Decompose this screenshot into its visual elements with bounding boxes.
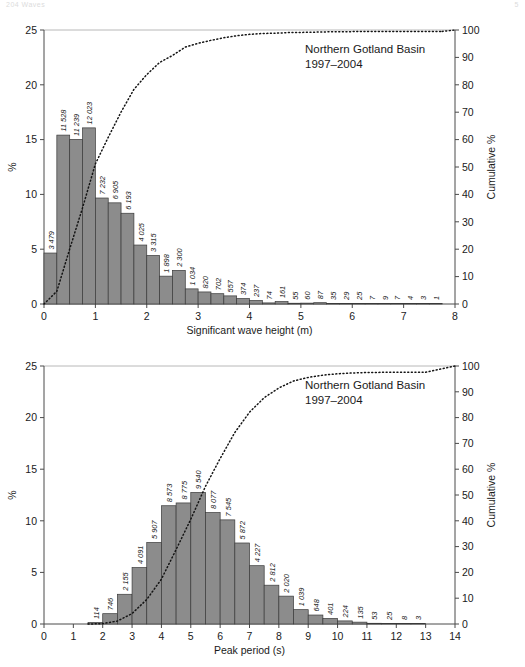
bar-value-label: 11 239 bbox=[72, 114, 81, 136]
bar bbox=[416, 303, 429, 304]
bar-value-label: 161 bbox=[278, 286, 287, 298]
x-tick-label: 8 bbox=[452, 310, 458, 322]
bar-value-label: 5 907 bbox=[150, 520, 159, 539]
bar-value-label: 1 898 bbox=[162, 253, 171, 272]
bar-value-label: 224 bbox=[341, 605, 350, 618]
y2-tick-label: 20 bbox=[462, 243, 474, 255]
y-tick-label: 20 bbox=[25, 79, 37, 91]
x-tick-label: 7 bbox=[247, 630, 253, 642]
bar bbox=[314, 303, 327, 304]
y2-axis-title: Cumulative % bbox=[485, 135, 497, 200]
x-tick-label: 11 bbox=[361, 630, 372, 642]
bar bbox=[301, 303, 314, 304]
chart-subtitle-annotation: 1997–2004 bbox=[305, 58, 363, 70]
bar bbox=[108, 203, 121, 304]
plot-area-wrapper-1: 0510152025010203040506070809010001234567… bbox=[0, 16, 525, 336]
bar bbox=[250, 566, 265, 624]
x-tick-label: 4 bbox=[159, 630, 165, 642]
bar-value-label: 1 034 bbox=[188, 267, 197, 286]
bar bbox=[132, 568, 147, 624]
bar bbox=[352, 303, 365, 304]
y2-tick-label: 50 bbox=[462, 489, 474, 501]
bar bbox=[224, 296, 237, 304]
y2-tick-label: 0 bbox=[462, 298, 468, 310]
x-tick-label: 2 bbox=[144, 310, 150, 322]
y-tick-label: 25 bbox=[25, 360, 37, 372]
bar-value-label: 1 039 bbox=[297, 588, 306, 607]
bar bbox=[160, 276, 173, 304]
bar-value-label: 25 bbox=[355, 291, 364, 301]
x-tick-label: 1 bbox=[92, 310, 98, 322]
bar bbox=[220, 520, 235, 624]
x-tick-label: 4 bbox=[247, 310, 253, 322]
x-tick-label: 6 bbox=[217, 630, 223, 642]
y2-axis-title: Cumulative % bbox=[485, 463, 497, 528]
x-axis-title: Significant wave height (m) bbox=[186, 324, 312, 336]
bar-value-label: 35 bbox=[329, 291, 338, 300]
x-tick-label: 6 bbox=[349, 310, 355, 322]
bar bbox=[404, 303, 417, 304]
bar bbox=[205, 513, 220, 624]
bar-value-label: 9 540 bbox=[194, 470, 203, 489]
bar bbox=[365, 303, 378, 304]
plot-area-wrapper-2: 0510152025010203040506070809010001234567… bbox=[0, 352, 525, 667]
y-tick-label: 10 bbox=[25, 515, 37, 527]
bar bbox=[172, 270, 185, 304]
bar bbox=[264, 585, 279, 624]
bar-value-label: 87 bbox=[316, 290, 325, 299]
y2-tick-label: 40 bbox=[462, 188, 474, 200]
y2-tick-label: 90 bbox=[462, 386, 474, 398]
y-axis-title: % bbox=[6, 162, 18, 171]
y-tick-label: 10 bbox=[25, 188, 37, 200]
y-tick-label: 5 bbox=[31, 566, 37, 578]
x-tick-label: 14 bbox=[449, 630, 461, 642]
x-tick-label: 10 bbox=[332, 630, 344, 642]
bar bbox=[198, 292, 211, 304]
y2-tick-label: 30 bbox=[462, 540, 474, 552]
bar-value-label: 53 bbox=[370, 611, 379, 620]
x-tick-label: 8 bbox=[276, 630, 282, 642]
y2-tick-label: 30 bbox=[462, 216, 474, 228]
running-head: 204 Waves 5 bbox=[6, 1, 519, 11]
bar-value-label: 4 bbox=[406, 296, 415, 300]
chart-subtitle-annotation: 1997–2004 bbox=[305, 394, 363, 406]
bar-value-label: 6 193 bbox=[124, 190, 133, 209]
bar-value-label: 4 227 bbox=[253, 543, 262, 562]
bar-value-label: 3 315 bbox=[149, 233, 158, 252]
bar bbox=[185, 289, 198, 304]
x-tick-label: 3 bbox=[195, 310, 201, 322]
y2-tick-label: 70 bbox=[462, 106, 474, 118]
bar-value-label: 2 020 bbox=[282, 573, 291, 593]
bar bbox=[396, 623, 411, 624]
bar-value-label: 135 bbox=[356, 605, 365, 618]
y2-tick-label: 20 bbox=[462, 566, 474, 578]
bar-value-label: 5 872 bbox=[238, 521, 247, 540]
y2-tick-label: 100 bbox=[462, 360, 480, 372]
bar-value-label: 2 300 bbox=[175, 247, 184, 267]
bar bbox=[134, 245, 147, 304]
y-tick-label: 15 bbox=[25, 463, 37, 475]
bar bbox=[211, 294, 224, 304]
bar-value-label: 648 bbox=[312, 598, 321, 611]
y2-tick-label: 60 bbox=[462, 133, 474, 145]
bar-value-label: 7 545 bbox=[224, 497, 233, 516]
bar-value-label: 401 bbox=[326, 603, 335, 615]
bar-value-label: 29 bbox=[342, 292, 351, 301]
bar-value-label: 8 573 bbox=[165, 483, 174, 502]
bar-value-label: 55 bbox=[291, 291, 300, 300]
bar bbox=[235, 543, 250, 624]
running-head-left: 204 Waves bbox=[6, 1, 45, 11]
figure-significant-wave-height: 0510152025010203040506070809010001234567… bbox=[0, 16, 525, 336]
bar-value-label: 2 812 bbox=[268, 563, 277, 583]
bar bbox=[352, 622, 367, 624]
bar-value-label: 7 bbox=[368, 295, 377, 300]
bar bbox=[338, 621, 353, 624]
y-tick-label: 15 bbox=[25, 133, 37, 145]
bar-value-label: 820 bbox=[201, 275, 210, 288]
y2-tick-label: 10 bbox=[462, 592, 474, 604]
bar-value-label: 12 023 bbox=[85, 101, 94, 124]
bar bbox=[83, 128, 96, 304]
bar-value-label: 2 155 bbox=[121, 571, 130, 591]
y2-tick-label: 60 bbox=[462, 463, 474, 475]
x-tick-label: 5 bbox=[298, 310, 304, 322]
